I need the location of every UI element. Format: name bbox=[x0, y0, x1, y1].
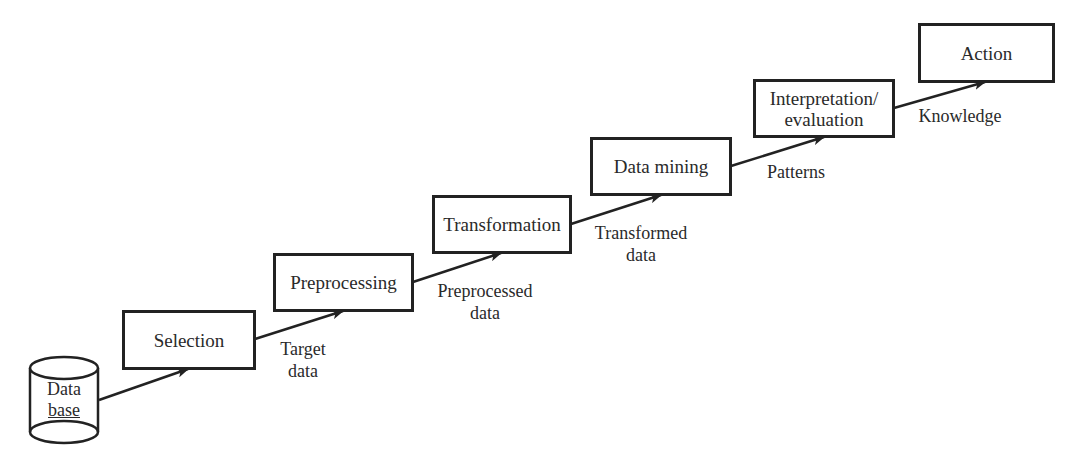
edge-label-transformed-data-line2: data bbox=[585, 244, 697, 266]
stage-selection: Selection bbox=[122, 310, 256, 370]
edge-label-knowledge: Knowledge bbox=[912, 105, 1008, 127]
stage-action-label: Action bbox=[961, 43, 1013, 64]
stage-interpretation-label-line2: evaluation bbox=[784, 109, 863, 130]
stage-interpretation-label-line1: Interpretation/ bbox=[770, 88, 879, 109]
arrow-database-to-selection bbox=[99, 369, 188, 400]
edge-label-preprocessed-data: Preprocessed data bbox=[428, 280, 542, 324]
stage-preprocessing: Preprocessing bbox=[273, 253, 414, 312]
database-label-line2: base bbox=[30, 400, 98, 421]
stage-selection-label: Selection bbox=[154, 330, 225, 351]
stage-preprocessing-label: Preprocessing bbox=[290, 272, 397, 293]
stage-data-mining: Data mining bbox=[590, 137, 732, 196]
edge-label-target-data-line2: data bbox=[272, 360, 334, 382]
edge-label-transformed-data-line1: Transformed bbox=[585, 222, 697, 244]
edge-label-patterns-line1: Patterns bbox=[758, 161, 834, 183]
database-label-line1: Data bbox=[30, 379, 98, 400]
arrow-selection-to-preprocessing bbox=[255, 311, 343, 339]
edge-label-patterns: Patterns bbox=[758, 161, 834, 183]
edge-label-knowledge-line1: Knowledge bbox=[912, 105, 1008, 127]
edge-label-preprocessed-data-line2: data bbox=[428, 302, 542, 324]
stage-transformation: Transformation bbox=[432, 195, 572, 254]
edge-label-target-data: Target data bbox=[272, 338, 334, 382]
stage-action: Action bbox=[918, 23, 1055, 83]
stage-transformation-label: Transformation bbox=[443, 214, 561, 235]
edge-label-target-data-line1: Target bbox=[272, 338, 334, 360]
edge-label-preprocessed-data-line1: Preprocessed bbox=[428, 280, 542, 302]
arrow-transformation-to-datamining bbox=[571, 195, 661, 224]
stage-interpretation: Interpretation/ evaluation bbox=[753, 79, 895, 138]
database-label: Data base bbox=[30, 379, 98, 421]
edge-label-transformed-data: Transformed data bbox=[585, 222, 697, 266]
stage-data-mining-label: Data mining bbox=[614, 156, 708, 177]
arrow-preprocessing-to-transformation bbox=[413, 253, 501, 282]
